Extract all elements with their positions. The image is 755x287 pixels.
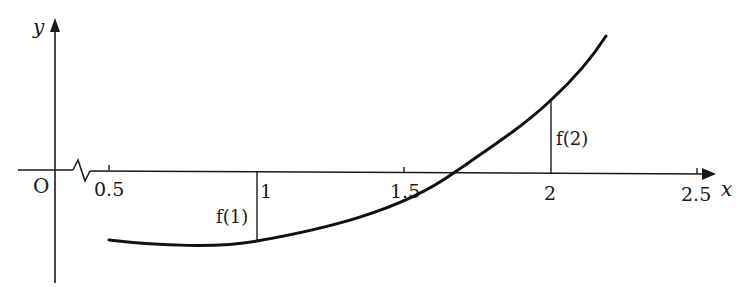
x-axis-arrow-icon — [702, 168, 716, 180]
y-axis: y — [32, 15, 60, 283]
f1-label: f(1) — [216, 206, 248, 227]
tick-label-2: 2 — [544, 182, 556, 204]
x-axis-label: x — [721, 177, 732, 201]
origin-label: O — [33, 174, 49, 198]
function-curve — [109, 36, 606, 245]
tick-label-0-5: 0.5 — [94, 178, 124, 200]
y-axis-label: y — [32, 15, 45, 39]
axis-break-icon — [73, 160, 90, 181]
tick-label-1: 1 — [260, 180, 272, 202]
marker-f2: f(2) — [551, 101, 588, 174]
function-graph-figure: y x O 0.5 1 1.5 2 2.5 f(1) — [0, 0, 755, 287]
y-axis-arrow-icon — [50, 18, 60, 32]
marker-f1: f(1) — [216, 172, 257, 241]
tick-label-2-5: 2.5 — [681, 183, 711, 205]
f2-label: f(2) — [556, 128, 588, 149]
x-axis: x O — [18, 160, 732, 201]
